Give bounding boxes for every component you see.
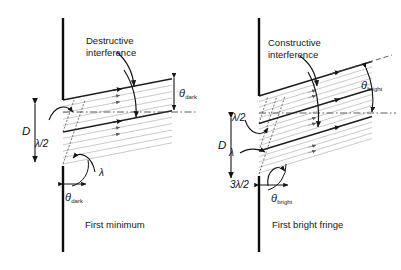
- left-bottom-theta-subscript: dark: [71, 198, 83, 204]
- right-lambda-half-label: λ/2: [232, 113, 245, 123]
- left-interference-label-line2: interference: [86, 48, 136, 58]
- right-interference-label-line1: Constructive: [268, 38, 321, 48]
- right-slit-width-label: D: [218, 140, 226, 152]
- left-slit-width-label: D: [22, 126, 30, 138]
- right-bottom-theta-subscript: bright: [277, 199, 292, 205]
- right-theta-subscript: bright: [367, 86, 382, 92]
- right-three-lambda-half-pointer: [268, 168, 285, 186]
- right-light-ray-arrows: [308, 90, 316, 153]
- right-dark-rays: [259, 62, 372, 152]
- right-theta-bright-slit-label: θbright: [271, 189, 292, 205]
- right-lambda-label: λ: [229, 148, 234, 158]
- left-theta-dark-label: θdark: [179, 84, 197, 100]
- left-interference-label-line1: Destructive: [86, 36, 134, 46]
- left-lambda-half-label: λ/2: [35, 139, 48, 149]
- right-theta-bright-slit-angle: [259, 164, 288, 190]
- left-lambda-label: λ: [99, 168, 104, 178]
- diffraction-figure: Destructive interference θdark D λ/2 λ θ…: [0, 0, 401, 270]
- right-theta-bright-label: θbright: [361, 76, 382, 92]
- right-path-difference-ticks: [259, 96, 285, 174]
- right-dark-ray-arrows: [330, 71, 340, 129]
- left-theta-dark-slit-label: θdark: [65, 188, 83, 204]
- right-panel-caption: First bright fringe: [272, 220, 343, 230]
- right-interference-label-line2: interference: [268, 50, 318, 60]
- right-light-rays: [259, 67, 372, 173]
- right-angle-upper-dashed: [330, 55, 392, 74]
- left-theta-subscript: dark: [185, 94, 197, 100]
- right-three-lambda-half-label: 3λ/2: [230, 180, 249, 190]
- left-panel-caption: First minimum: [85, 220, 145, 230]
